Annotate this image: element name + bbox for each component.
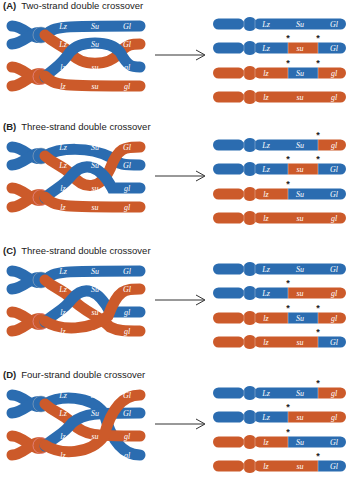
allele-label: su bbox=[296, 462, 303, 471]
arrow-right-icon bbox=[155, 50, 205, 60]
allele-label: Lz bbox=[58, 22, 67, 31]
tetrad: LzSuGlLzSuGllzsugllzsugl bbox=[12, 143, 140, 212]
allele-label: su bbox=[91, 63, 98, 72]
arrow-right-icon bbox=[155, 171, 205, 181]
allele-label: lz bbox=[263, 314, 269, 323]
products: LzSugl*LzsuGl**lzSuGl*lzsugl bbox=[213, 130, 346, 226]
tetrad: LzSuGlLzSuGllzsugllzsugl bbox=[12, 22, 140, 91]
allele-label: Su bbox=[91, 391, 99, 400]
allele-label: Gl bbox=[123, 409, 132, 418]
allele-label: gl bbox=[331, 141, 338, 150]
crossover-diagram: LzSuGlLzSuGllzsugllzsuglLzSuGlLzsugl*lzS… bbox=[0, 245, 355, 365]
product-chromatid: lzSuGl* bbox=[213, 427, 346, 450]
allele-label: Su bbox=[296, 141, 304, 150]
allele-label: Gl bbox=[123, 267, 132, 276]
allele-label: Lz bbox=[261, 20, 270, 29]
allele-label: su bbox=[296, 289, 303, 298]
allele-label: Su bbox=[296, 389, 304, 398]
allele-label: Lz bbox=[261, 141, 270, 150]
product-chromatid: Lzsugl* bbox=[213, 402, 346, 425]
products: LzSuGlLzsuGl**lzSugl**lzsugl bbox=[213, 16, 346, 105]
product-chromatid: LzsuGl** bbox=[213, 154, 346, 177]
allele-label: Lz bbox=[58, 40, 67, 49]
panel-a: (A)Two-strand double crossoverLzSuGlLzSu… bbox=[0, 0, 355, 120]
product-chromatid: lzsuGl* bbox=[213, 451, 346, 474]
crossover-star-icon: * bbox=[286, 303, 290, 313]
allele-label: Gl bbox=[330, 44, 339, 53]
allele-label: Gl bbox=[330, 165, 339, 174]
allele-label: Lz bbox=[58, 391, 67, 400]
allele-label: su bbox=[91, 203, 98, 212]
allele-label: su bbox=[91, 432, 98, 441]
allele-label: Lz bbox=[261, 265, 270, 274]
allele-label: Gl bbox=[330, 438, 339, 447]
allele-label: Lz bbox=[58, 409, 67, 418]
allele-label: su bbox=[296, 165, 303, 174]
allele-label: Su bbox=[91, 285, 99, 294]
allele-label: su bbox=[91, 184, 98, 193]
allele-label: Su bbox=[296, 265, 304, 274]
allele-label: gl bbox=[124, 203, 131, 212]
allele-label: Su bbox=[91, 40, 99, 49]
allele-label: gl bbox=[124, 432, 131, 441]
product-chromatid: lzsugl bbox=[213, 210, 346, 226]
product-chromatid: LzSugl* bbox=[213, 130, 346, 153]
product-chromatid: Lzsugl* bbox=[213, 278, 346, 301]
allele-label: Su bbox=[91, 409, 99, 418]
allele-label: Gl bbox=[123, 22, 132, 31]
product-chromatid: lzSugl** bbox=[213, 58, 346, 81]
allele-label: su bbox=[296, 93, 303, 102]
crossover-star-icon: * bbox=[286, 427, 290, 437]
allele-label: gl bbox=[124, 82, 131, 91]
panel-b: (B)Three-strand double crossoverLzSuGlLz… bbox=[0, 121, 355, 241]
allele-label: Gl bbox=[123, 391, 132, 400]
allele-label: gl bbox=[331, 314, 338, 323]
crossover-star-icon: * bbox=[286, 179, 290, 189]
allele-label: Gl bbox=[123, 40, 132, 49]
tetrad: LzSuGlLzSuGllzsugllzsugl bbox=[12, 391, 140, 460]
product-chromatid: LzSuGl bbox=[213, 16, 346, 32]
allele-label: Gl bbox=[330, 462, 339, 471]
product-chromatid: lzSuGl* bbox=[213, 179, 346, 202]
product-chromatid: LzSugl* bbox=[213, 378, 346, 401]
allele-label: gl bbox=[124, 63, 131, 72]
crossover-star-icon: * bbox=[286, 33, 290, 43]
crossover-star-icon: * bbox=[316, 327, 320, 337]
allele-label: Lz bbox=[58, 161, 67, 170]
allele-label: Lz bbox=[58, 285, 67, 294]
allele-label: lz bbox=[263, 462, 269, 471]
allele-label: su bbox=[91, 308, 98, 317]
allele-label: Lz bbox=[261, 389, 270, 398]
allele-label: Lz bbox=[58, 267, 67, 276]
product-chromatid: lzSugl** bbox=[213, 303, 346, 326]
allele-label: Su bbox=[91, 143, 99, 152]
crossover-star-icon: * bbox=[316, 130, 320, 140]
tetrad: LzSuGlLzSuGllzsugllzsugl bbox=[12, 267, 140, 336]
allele-label: lz bbox=[60, 184, 66, 193]
crossover-star-icon: * bbox=[316, 451, 320, 461]
arrow-right-icon bbox=[155, 419, 205, 429]
allele-label: lz bbox=[60, 203, 66, 212]
allele-label: lz bbox=[263, 190, 269, 199]
allele-label: Gl bbox=[330, 265, 339, 274]
allele-label: gl bbox=[331, 389, 338, 398]
allele-label: lz bbox=[60, 63, 66, 72]
crossover-star-icon: * bbox=[286, 154, 290, 164]
allele-label: Gl bbox=[123, 285, 132, 294]
allele-label: su bbox=[296, 44, 303, 53]
allele-label: su bbox=[296, 338, 303, 347]
allele-label: lz bbox=[263, 69, 269, 78]
products: LzSugl*Lzsugl*lzSuGl*lzsuGl* bbox=[213, 378, 346, 474]
allele-label: Su bbox=[296, 314, 304, 323]
panel-c: (C)Three-strand double crossoverLzSuGlLz… bbox=[0, 245, 355, 365]
crossover-star-icon: * bbox=[316, 378, 320, 388]
allele-label: Gl bbox=[330, 338, 339, 347]
product-chromatid: LzSuGl bbox=[213, 261, 346, 277]
allele-label: lz bbox=[263, 438, 269, 447]
allele-label: gl bbox=[331, 69, 338, 78]
crossover-star-icon: * bbox=[316, 154, 320, 164]
allele-label: lz bbox=[60, 432, 66, 441]
allele-label: su bbox=[296, 214, 303, 223]
allele-label: su bbox=[91, 327, 98, 336]
allele-label: Su bbox=[296, 69, 304, 78]
